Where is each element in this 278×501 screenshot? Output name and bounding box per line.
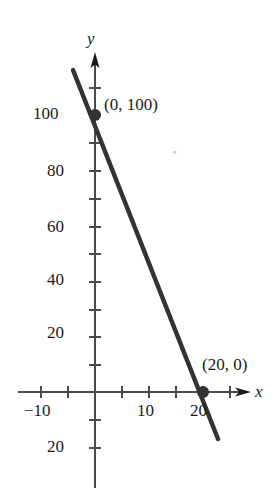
point-marker-x-intercept bbox=[197, 386, 209, 398]
scan-speck bbox=[173, 150, 176, 153]
y-tick-label-negative-20: 20 bbox=[47, 438, 64, 455]
x-tick-label-negative-10: −10 bbox=[24, 402, 51, 419]
y-axis-label: y bbox=[87, 30, 95, 47]
coordinate-plane-svg bbox=[0, 0, 278, 501]
x-axis-label: x bbox=[255, 383, 263, 400]
point-label-x-intercept: (20, 0) bbox=[202, 356, 247, 373]
y-tick-label-40: 40 bbox=[47, 271, 64, 288]
x-tick-label-10: 10 bbox=[137, 402, 154, 419]
y-tick-label-60: 60 bbox=[47, 218, 64, 235]
y-tick-label-20: 20 bbox=[47, 324, 64, 341]
y-tick-label-100: 100 bbox=[33, 105, 59, 122]
point-label-y-intercept: (0, 100) bbox=[104, 96, 158, 113]
point-marker-y-intercept bbox=[89, 109, 101, 121]
y-tick-label-80: 80 bbox=[47, 162, 64, 179]
graph-figure: 100 80 60 40 20 20 −10 10 20 y x (0, 100… bbox=[0, 0, 278, 501]
x-tick-label-20: 20 bbox=[190, 402, 207, 419]
